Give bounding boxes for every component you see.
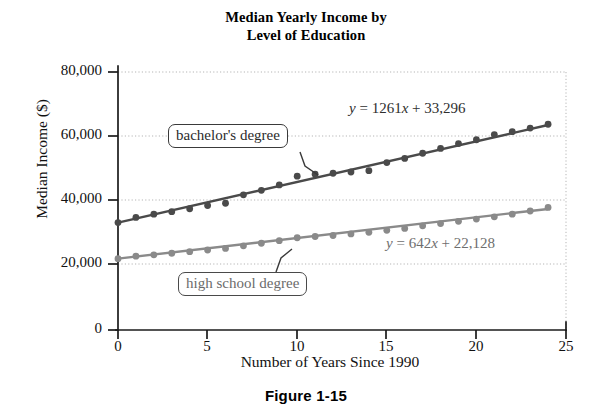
data-point <box>240 242 247 249</box>
highschool-eq-mid: = 642 <box>393 235 431 251</box>
data-point <box>401 155 408 162</box>
data-point <box>455 140 462 147</box>
data-point <box>348 169 355 176</box>
x-axis-ticks <box>118 330 566 339</box>
figure-caption: Figure 1-15 <box>0 387 612 404</box>
callout-leaders <box>276 152 318 272</box>
bachelors-equation-label: y = 1261x + 33,296 <box>349 100 466 117</box>
data-point <box>545 121 552 128</box>
data-point <box>115 255 122 262</box>
data-point <box>527 208 534 215</box>
data-point <box>473 136 480 143</box>
data-point <box>168 208 175 215</box>
data-point <box>276 237 283 244</box>
data-point <box>491 213 498 220</box>
data-point <box>419 222 426 229</box>
data-point <box>383 227 390 234</box>
highschool-leader-line <box>276 249 292 272</box>
data-point <box>491 131 498 138</box>
data-point <box>133 253 140 260</box>
data-point <box>294 234 301 241</box>
callout-bachelors-degree[interactable]: bachelor's degree <box>168 124 288 148</box>
data-point <box>545 204 552 211</box>
y-axis-title: Median Income ($) <box>33 39 51 279</box>
data-point <box>330 170 337 177</box>
data-point <box>186 205 193 212</box>
data-point <box>258 240 265 247</box>
highschool-eq-x: x <box>431 235 438 251</box>
data-point <box>509 128 516 135</box>
data-point <box>401 225 408 232</box>
highschool-eq-y: y <box>386 235 393 251</box>
data-point <box>455 218 462 225</box>
data-point <box>276 181 283 188</box>
data-point <box>330 232 337 239</box>
highschool-equation-label: y = 642x + 22,128 <box>386 235 495 252</box>
data-point <box>312 233 319 240</box>
figure-container: Median Yearly Income by Level of Educati… <box>0 0 612 418</box>
data-point <box>473 216 480 223</box>
data-point <box>133 214 140 221</box>
y-tick-label-60000: 60,000 <box>18 126 102 143</box>
y-tick-label-40000: 40,000 <box>18 190 102 207</box>
y-axis-ticks <box>108 72 118 330</box>
y-tick-label-0: 0 <box>18 320 102 337</box>
data-point <box>204 202 211 209</box>
data-point <box>222 245 229 252</box>
bachelors-eq-y: y <box>349 100 356 116</box>
data-point <box>365 167 372 174</box>
callout-high-school-degree[interactable]: high school degree <box>178 272 307 296</box>
data-point <box>150 251 157 258</box>
data-point <box>509 211 516 218</box>
x-axis-title: Number of Years Since 1990 <box>80 353 580 371</box>
data-point <box>437 145 444 152</box>
data-point <box>204 247 211 254</box>
data-point <box>527 125 534 132</box>
data-point <box>168 250 175 257</box>
data-point <box>365 229 372 236</box>
y-tick-label-80000: 80,000 <box>18 62 102 79</box>
data-point <box>115 219 122 226</box>
data-point <box>222 200 229 207</box>
data-point <box>186 248 193 255</box>
series-high-school-degree <box>115 204 552 262</box>
data-point <box>294 173 301 180</box>
data-point <box>348 230 355 237</box>
data-point <box>150 211 157 218</box>
data-point <box>258 187 265 194</box>
data-point <box>419 150 426 157</box>
data-point <box>240 191 247 198</box>
data-point <box>437 220 444 227</box>
bachelors-eq-tail: + 33,296 <box>408 100 465 116</box>
bachelors-eq-mid: = 1261 <box>356 100 402 116</box>
data-point <box>383 159 390 166</box>
highschool-eq-tail: + 22,128 <box>438 235 495 251</box>
y-tick-label-20000: 20,000 <box>18 254 102 271</box>
